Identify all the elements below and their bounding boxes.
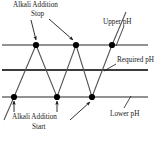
stop-annotation-arrows [31,19,73,40]
upper-ph-label: Upper pH [103,18,132,26]
required-ph-label: Required pH [117,56,154,64]
reference-lines [2,45,148,97]
stop-arrow-1 [31,20,36,40]
upper-ph-leader [116,26,124,46]
alkali-addition-stop-label-line1: Alkali Addition [13,1,58,9]
marker-stop-1 [33,42,39,48]
ph-control-diagram: Alkali Addition Stop Upper pH Required p… [0,0,157,145]
alkali-addition-start-label-line2: Start [32,123,46,131]
alkali-addition-start-label-line1: Alkali Addition [12,113,57,121]
marker-stop-3 [109,42,115,48]
lower-ph-label: Lower pH [110,110,139,118]
marker-stop-2 [73,42,79,48]
diagram-canvas [0,0,157,145]
marker-start-3 [89,94,95,100]
start-arrow-3 [70,102,90,120]
stop-arrow-2 [49,19,73,40]
marker-start-2 [54,94,60,100]
alkali-addition-stop-label-line2: Stop [31,10,44,18]
ph-trace-path [4,12,126,120]
limit-leader-lines [104,26,131,108]
marker-start-1 [11,94,17,100]
lower-ph-leader [124,96,131,108]
ph-trace [4,12,126,120]
